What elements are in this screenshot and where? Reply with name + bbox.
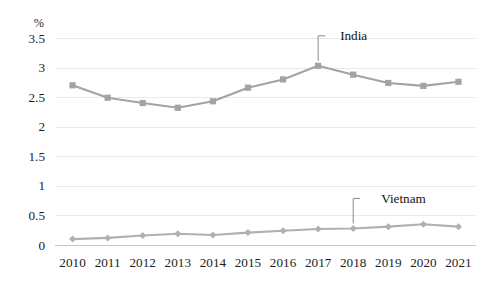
series-vietnam bbox=[69, 221, 462, 243]
x-tick-label: 2013 bbox=[165, 255, 192, 270]
y-tick-label: 3.5 bbox=[29, 31, 46, 46]
y-tick-label: 2 bbox=[38, 119, 45, 134]
data-point-marker bbox=[315, 63, 321, 69]
x-tick-label: 2021 bbox=[445, 255, 471, 270]
data-point-marker bbox=[420, 83, 426, 89]
series-label-india: India bbox=[340, 28, 367, 43]
y-tick-label: 3 bbox=[38, 60, 45, 75]
x-tick-label: 2018 bbox=[340, 255, 367, 270]
x-tick-label: 2020 bbox=[410, 255, 437, 270]
y-tick-label: 2.5 bbox=[29, 90, 46, 105]
data-point-marker bbox=[139, 232, 146, 239]
data-point-marker bbox=[315, 226, 322, 233]
data-point-marker bbox=[244, 229, 251, 236]
leader-line-india bbox=[318, 36, 325, 61]
data-point-marker bbox=[104, 234, 111, 241]
data-point-marker bbox=[455, 79, 461, 85]
series-annotations: IndiaVietnam bbox=[318, 28, 426, 223]
series-india bbox=[69, 63, 461, 111]
leader-line-vietnam bbox=[353, 198, 360, 223]
y-tick-label: 1.5 bbox=[29, 149, 46, 164]
series-line-india bbox=[73, 66, 459, 108]
data-point-marker bbox=[280, 76, 286, 82]
y-tick-label: 1 bbox=[38, 178, 45, 193]
x-tick-label: 2011 bbox=[95, 255, 121, 270]
y-tick-label: 0 bbox=[38, 238, 45, 253]
data-point-marker bbox=[350, 72, 356, 78]
x-tick-label: 2015 bbox=[235, 255, 262, 270]
x-tick-label: 2016 bbox=[270, 255, 297, 270]
data-point-marker bbox=[174, 230, 181, 237]
data-point-marker bbox=[350, 225, 357, 232]
data-point-marker bbox=[385, 223, 392, 230]
line-chart: % 3.532.521.510.50 201020112012201320142… bbox=[0, 0, 488, 285]
data-point-marker bbox=[280, 227, 287, 234]
y-axis-tick-labels: 3.532.521.510.50 bbox=[29, 31, 46, 253]
data-point-marker bbox=[455, 223, 462, 230]
x-tick-label: 2017 bbox=[305, 255, 332, 270]
data-point-marker bbox=[175, 105, 181, 111]
y-tick-label: 0.5 bbox=[29, 208, 46, 223]
data-point-marker bbox=[140, 100, 146, 106]
series-line-vietnam bbox=[73, 224, 459, 239]
x-axis-tick-labels: 2010201120122013201420152016201720182019… bbox=[59, 255, 471, 270]
data-point-marker bbox=[209, 231, 216, 238]
x-tick-label: 2014 bbox=[200, 255, 227, 270]
chart-canvas: % 3.532.521.510.50 201020112012201320142… bbox=[0, 0, 488, 285]
x-tick-label: 2010 bbox=[59, 255, 86, 270]
data-point-marker bbox=[69, 82, 75, 88]
data-point-marker bbox=[420, 221, 427, 228]
series-label-vietnam: Vietnam bbox=[381, 191, 426, 206]
gridlines bbox=[55, 39, 476, 216]
x-tick-label: 2019 bbox=[375, 255, 402, 270]
data-point-marker bbox=[105, 95, 111, 101]
x-tick-label: 2012 bbox=[130, 255, 156, 270]
data-point-marker bbox=[245, 85, 251, 91]
y-axis-unit-label: % bbox=[34, 16, 44, 30]
data-point-marker bbox=[385, 80, 391, 86]
data-point-marker bbox=[210, 98, 216, 104]
data-point-marker bbox=[69, 236, 76, 243]
